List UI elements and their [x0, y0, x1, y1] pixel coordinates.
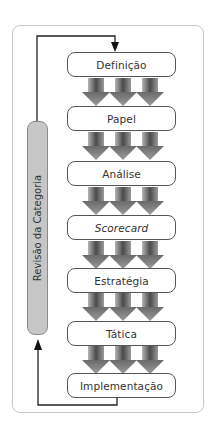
arrow-row-1 — [82, 78, 164, 106]
step-implementacao: Implementação — [67, 373, 176, 398]
arrow-row-3 — [82, 187, 164, 215]
step-scorecard: Scorecard — [67, 215, 176, 240]
step-definicao: Definição — [67, 52, 176, 77]
arrow-row-6 — [82, 346, 164, 374]
feedback-label: Revisão da Categoria — [32, 175, 43, 281]
arrow-row-4 — [82, 241, 164, 269]
step-papel: Papel — [67, 106, 176, 131]
step-estrategia: Estratégia — [67, 268, 176, 293]
step-analise: Análise — [67, 161, 176, 186]
arrow-row-5 — [82, 293, 164, 321]
arrow-row-2 — [82, 132, 164, 160]
step-tatica: Tática — [67, 321, 176, 346]
